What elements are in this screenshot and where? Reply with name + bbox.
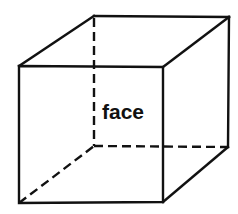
edge-back-bottom-hidden [94,146,228,147]
edge-bottom-right-diagonal [163,147,228,202]
edge-back-top [94,16,229,17]
edge-bottom-left-hidden [19,146,94,203]
cube-diagram: face [0,0,238,214]
edge-back-right [228,17,229,147]
edge-top-right-diagonal [163,17,229,67]
front-face [19,66,163,203]
edge-top-left-diagonal [19,16,94,66]
face-label: face [102,100,144,123]
